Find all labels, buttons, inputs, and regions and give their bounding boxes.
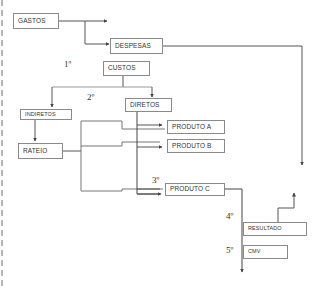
box-despesas: DESPESAS <box>110 38 163 54</box>
box-gastos: GASTOS <box>13 13 59 29</box>
step-label-4: 4º <box>226 212 233 221</box>
step-label-1: 1º <box>64 60 71 69</box>
box-produto-b: PRODUTO B <box>167 139 225 153</box>
step-label-3: 3º <box>152 176 159 185</box>
box-produto-a: PRODUTO A <box>167 120 225 134</box>
box-cmv: CMV <box>243 245 288 259</box>
box-custos: CUSTOS <box>103 61 150 76</box>
box-indiretos: INDIRETOS <box>20 109 72 120</box>
box-resultado: RESULTADO <box>243 222 307 236</box>
step-label-5: 5º <box>226 246 233 255</box>
box-rateio: RATEIO <box>18 143 63 159</box>
box-produto-c: PRODUTO C <box>165 183 225 196</box>
step-label-2: 2º <box>87 93 94 102</box>
box-diretos: DIRETOS <box>125 98 172 112</box>
